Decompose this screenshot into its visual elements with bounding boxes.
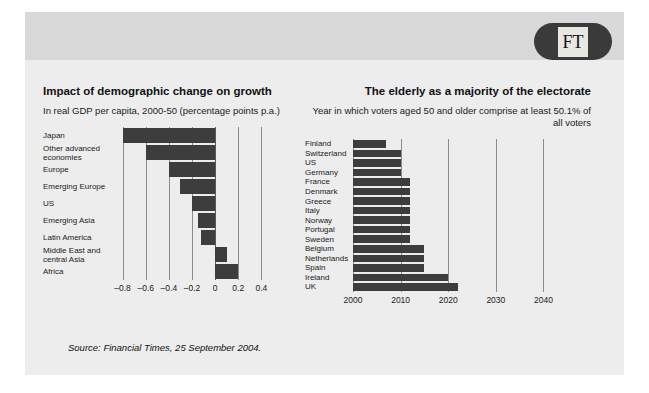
gridline	[192, 263, 193, 280]
x-tick-label: 2030	[486, 295, 505, 305]
bar-track	[353, 168, 553, 178]
gridline	[261, 144, 262, 161]
gridline	[123, 195, 124, 212]
x-tick-label: 0.4	[256, 283, 268, 293]
bar-track	[111, 195, 273, 212]
bar	[353, 235, 410, 243]
gridline	[543, 196, 544, 206]
gridline	[448, 168, 449, 178]
gridline	[543, 187, 544, 197]
category-label: Middle East and central Asia	[43, 246, 111, 264]
category-label: Other advanced economies	[43, 144, 111, 162]
category-label: Ireland	[305, 273, 353, 282]
chart-row: Sweden	[305, 234, 553, 244]
gridline	[123, 229, 124, 246]
bar	[353, 169, 401, 177]
bar-track	[353, 282, 553, 292]
chart-row: Spain	[305, 263, 553, 273]
gridline	[146, 161, 147, 178]
chart-right-plot: FinlandSwitzerlandUSGermanyFranceDenmark…	[305, 139, 605, 308]
gridline	[146, 212, 147, 229]
bar-track	[353, 244, 553, 254]
gridline	[496, 206, 497, 216]
gridline	[123, 178, 124, 195]
chart-row: Germany	[305, 168, 553, 178]
category-label: UK	[305, 282, 353, 291]
gridline	[123, 246, 124, 263]
category-label: Denmark	[305, 187, 353, 196]
category-label: US	[305, 158, 353, 167]
x-tick-label: 2000	[344, 295, 363, 305]
chart-left-title: Impact of demographic change on growth	[43, 60, 303, 98]
gridline	[496, 168, 497, 178]
bar	[353, 216, 410, 224]
bar	[353, 283, 458, 291]
gridline	[238, 127, 239, 144]
bar-track	[111, 178, 273, 195]
gridline	[543, 273, 544, 283]
gridline	[543, 282, 544, 292]
x-tick-label: –0.6	[137, 283, 154, 293]
gridline	[543, 215, 544, 225]
chart-right-title: The elderly as a majority of the elector…	[305, 60, 605, 98]
bar-track	[111, 161, 273, 178]
gridline	[261, 263, 262, 280]
gridline	[496, 187, 497, 197]
gridline	[261, 127, 262, 144]
gridline	[238, 263, 239, 280]
gridline	[215, 161, 216, 178]
chart-row: Portugal	[305, 225, 553, 235]
category-label: Portugal	[305, 225, 353, 234]
bar	[215, 247, 227, 262]
gridline	[401, 158, 402, 168]
chart-row: Latin America	[43, 229, 273, 246]
gridline	[448, 225, 449, 235]
bar	[353, 207, 410, 215]
bar-track	[353, 149, 553, 159]
bar	[146, 145, 215, 160]
gridline	[169, 263, 170, 280]
bar	[192, 196, 215, 211]
bar	[353, 274, 448, 282]
chart-row: Finland	[305, 139, 553, 149]
chart-row: Denmark	[305, 187, 553, 197]
gridline	[448, 254, 449, 264]
x-tick-label: 0.2	[232, 283, 244, 293]
chart-row: UK	[305, 282, 553, 292]
gridline	[261, 229, 262, 246]
chart-row: Italy	[305, 206, 553, 216]
bar	[353, 188, 410, 196]
chart-row: Ireland	[305, 273, 553, 283]
category-label: France	[305, 177, 353, 186]
gridline	[123, 263, 124, 280]
gridline	[448, 234, 449, 244]
gridline	[215, 178, 216, 195]
category-label: Switzerland	[305, 149, 353, 158]
category-label: Finland	[305, 139, 353, 148]
category-label: Spain	[305, 263, 353, 272]
gridline	[496, 215, 497, 225]
ft-logo-badge: FT	[558, 27, 588, 57]
bar-track	[353, 263, 553, 273]
bar	[123, 128, 216, 143]
gridline	[543, 234, 544, 244]
gridline	[401, 168, 402, 178]
category-label: Netherlands	[305, 254, 353, 263]
gridline	[146, 178, 147, 195]
chart-row: US	[43, 195, 273, 212]
gridline	[496, 282, 497, 292]
bar	[353, 150, 401, 158]
gridline	[496, 244, 497, 254]
gridline	[496, 273, 497, 283]
chart-row: Emerging Asia	[43, 212, 273, 229]
chart-row: Japan	[43, 127, 273, 144]
gridline	[543, 254, 544, 264]
gridline	[496, 177, 497, 187]
gridline	[448, 244, 449, 254]
chart-left-rows: JapanOther advanced economiesEuropeEmerg…	[43, 127, 273, 280]
chart-panel: FT Impact of demographic change on growt…	[25, 12, 624, 375]
bar	[201, 230, 215, 245]
category-label: Japan	[43, 131, 111, 140]
category-label: Sweden	[305, 235, 353, 244]
bar	[353, 245, 424, 253]
